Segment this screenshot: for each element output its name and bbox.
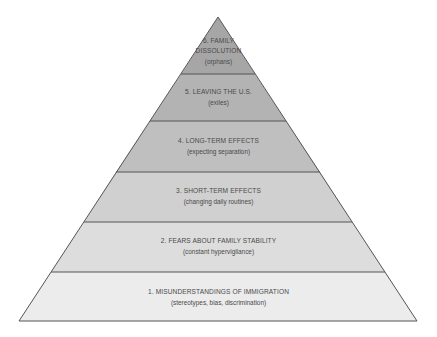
level-3-label: 3. SHORT-TERM EFFECTS (changing daily ro… [0,186,437,207]
level-6-title-line2: DISSOLUTION [0,46,437,56]
level-5-title: 5. LEAVING THE U.S. [0,87,437,97]
level-5-label: 5. LEAVING THE U.S. (exiles) [0,87,437,108]
level-2-subtitle: (constant hypervigilance) [0,247,437,257]
level-1-label: 1. MISUNDERSTANDINGS OF IMMIGRATION (ste… [0,287,437,308]
level-1-title: 1. MISUNDERSTANDINGS OF IMMIGRATION [0,287,437,297]
pyramid-diagram: 6. FAMILY DISSOLUTION (orphans) 5. LEAVI… [0,0,437,337]
level-1-subtitle: (stereotypes, bias, discrimination) [0,298,437,308]
level-6-title-line1: 6. FAMILY [0,36,437,46]
level-6-label: 6. FAMILY DISSOLUTION (orphans) [0,36,437,67]
level-5-subtitle: (exiles) [0,98,437,108]
level-4-subtitle: (expecting separation) [0,147,437,157]
level-3-subtitle: (changing daily routines) [0,197,437,207]
level-2-title: 2. FEARS ABOUT FAMILY STABILITY [0,236,437,246]
level-2-label: 2. FEARS ABOUT FAMILY STABILITY (constan… [0,236,437,257]
level-6-subtitle: (orphans) [0,57,437,67]
level-3-title: 3. SHORT-TERM EFFECTS [0,186,437,196]
level-4-label: 4. LONG-TERM EFFECTS (expecting separati… [0,136,437,157]
level-4-title: 4. LONG-TERM EFFECTS [0,136,437,146]
